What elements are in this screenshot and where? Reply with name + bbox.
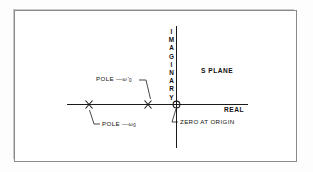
pole-label-prefix: POLE — — [96, 75, 123, 82]
leader-line-zero-at-origin — [172, 109, 178, 122]
real-axis-label: REAL — [224, 107, 244, 114]
pole-label-subscript: 0 — [133, 123, 136, 128]
imaginary-letter: N — [169, 69, 174, 77]
s-plane-label: S PLANE — [201, 68, 233, 75]
leader-line-pole-omega-prime-0 — [139, 80, 151, 99]
pole-label-omega0: POLE —ω0 — [102, 121, 136, 129]
pole-label-omega-prime-0: POLE —ω′0 — [96, 76, 132, 84]
leader-line-pole-omega0 — [90, 110, 101, 124]
imaginary-letter: G — [169, 53, 174, 61]
imaginary-letter: M — [169, 36, 174, 44]
imaginary-letter: I — [171, 61, 173, 69]
pole-label-subscript: 0 — [129, 78, 132, 83]
pole-zero-plot — [0, 0, 313, 172]
imaginary-letter: A — [169, 77, 174, 85]
figure-root: I M A G I N A R Y S PLANE REAL POLE —ω′0… — [0, 0, 313, 172]
imaginary-letter: I — [171, 28, 173, 36]
imaginary-letter: Y — [169, 94, 173, 102]
imaginary-letter: A — [169, 44, 174, 52]
zero-at-origin-label: ZERO AT ORIGIN — [180, 119, 235, 125]
imaginary-axis-label: I M A G I N A R Y — [167, 28, 176, 102]
pole-label-prefix: POLE — — [102, 120, 129, 127]
imaginary-letter: R — [169, 85, 174, 93]
